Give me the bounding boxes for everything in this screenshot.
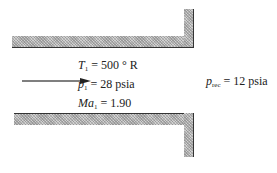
temperature-condition: T1 = 500 ° R: [78, 58, 138, 77]
inlet-conditions: T1 = 500 ° R p1 = 28 psia Ma1 = 1.90: [78, 58, 138, 115]
receiver-pressure: prec = 12 psia: [206, 74, 268, 93]
mach-condition: Ma1 = 1.90: [78, 96, 138, 115]
upper-exit-flange: [184, 9, 194, 47]
lower-exit-flange: [184, 113, 194, 157]
pressure-condition: p1 = 28 psia: [78, 77, 138, 96]
upper-duct-wall: [12, 36, 194, 48]
